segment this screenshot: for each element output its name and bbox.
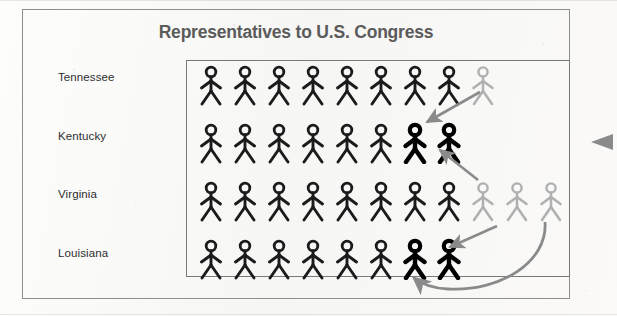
pictograph-figure-virginia-6 — [368, 180, 394, 222]
pictograph-figure-virginia-2 — [232, 180, 258, 222]
pictograph-figure-tennessee-9 — [470, 64, 496, 106]
pictograph-figure-louisiana-5 — [334, 238, 360, 280]
pictograph-figure-virginia-10 — [504, 180, 530, 222]
scan-line-top — [0, 0, 617, 1]
pictograph-figure-virginia-4 — [300, 180, 326, 222]
row-label-virginia: Virginia — [58, 188, 97, 200]
pictograph-figure-tennessee-2 — [232, 64, 258, 106]
pictograph-figure-louisiana-2 — [232, 238, 258, 280]
side-pointer-arrow-icon — [587, 132, 615, 152]
row-label-kentucky: Kentucky — [58, 130, 106, 142]
pictograph-figure-kentucky-3 — [266, 122, 292, 164]
pictograph-figure-kentucky-4 — [300, 122, 326, 164]
pictograph-figure-tennessee-8 — [436, 64, 462, 106]
pictograph-figure-kentucky-6 — [368, 122, 394, 164]
pictograph-figure-virginia-7 — [402, 180, 428, 222]
pictograph-figure-kentucky-7 — [402, 122, 428, 164]
pictograph-figure-louisiana-6 — [368, 238, 394, 280]
pictograph-figure-tennessee-1 — [198, 64, 224, 106]
pictograph-figure-tennessee-7 — [402, 64, 428, 106]
pictograph-figure-kentucky-1 — [198, 122, 224, 164]
pictograph-figure-louisiana-1 — [198, 238, 224, 280]
pictograph-figure-louisiana-3 — [266, 238, 292, 280]
pictograph-figure-virginia-11 — [538, 180, 564, 222]
pictograph-figure-louisiana-4 — [300, 238, 326, 280]
pictograph-figure-tennessee-3 — [266, 64, 292, 106]
pictograph-row-virginia — [198, 180, 572, 222]
pictograph-row-louisiana — [198, 238, 470, 280]
pictograph-figure-kentucky-5 — [334, 122, 360, 164]
pictograph-figure-tennessee-5 — [334, 64, 360, 106]
pictograph-figure-louisiana-7 — [402, 238, 428, 280]
pictograph-figure-virginia-3 — [266, 180, 292, 222]
scan-line-bottom — [0, 314, 617, 315]
pictograph-figure-louisiana-8 — [436, 238, 462, 280]
pictograph-figure-virginia-8 — [436, 180, 462, 222]
pictograph-page: Representatives to U.S. Congress Tenness… — [0, 0, 617, 316]
pictograph-figure-virginia-1 — [198, 180, 224, 222]
row-label-louisiana: Louisiana — [58, 247, 108, 259]
chart-title: Representatives to U.S. Congress — [22, 22, 570, 43]
pictograph-figure-tennessee-4 — [300, 64, 326, 106]
pictograph-figure-virginia-5 — [334, 180, 360, 222]
row-label-tennessee: Tennessee — [58, 71, 115, 83]
pictograph-figure-kentucky-2 — [232, 122, 258, 164]
pictograph-figure-tennessee-6 — [368, 64, 394, 106]
pictograph-row-kentucky — [198, 122, 470, 164]
pictograph-figure-virginia-9 — [470, 180, 496, 222]
pictograph-row-tennessee — [198, 64, 504, 106]
pictograph-figure-kentucky-8 — [436, 122, 462, 164]
